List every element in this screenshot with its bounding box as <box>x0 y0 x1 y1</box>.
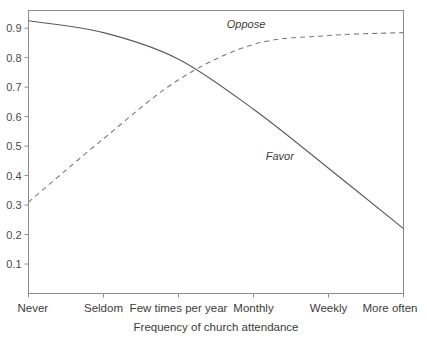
x-category-label: Weekly <box>310 302 348 314</box>
y-tick-label: 0.5 <box>6 140 21 152</box>
y-tick-label: 0.7 <box>6 81 21 93</box>
series-line-oppose <box>29 33 404 203</box>
x-category-label: More often <box>363 302 418 314</box>
y-tick-label: 0.6 <box>6 111 21 123</box>
y-tick-label: 0.4 <box>6 170 21 182</box>
y-tick-label: 0.1 <box>6 258 21 270</box>
x-category-label: Never <box>18 302 49 314</box>
x-category-label: Monthly <box>233 302 274 314</box>
y-tick-label: 0.9 <box>6 22 21 34</box>
x-axis-title: Frequency of church attendance <box>134 321 299 333</box>
series-annotation-favor: Favor <box>266 150 295 162</box>
line-chart: 0.10.20.30.40.50.60.70.80.9NeverSeldomFe… <box>0 0 427 341</box>
chart-container: 0.10.20.30.40.50.60.70.80.9NeverSeldomFe… <box>0 0 427 341</box>
y-tick-label: 0.2 <box>6 229 21 241</box>
x-category-label: Seldom <box>84 302 123 314</box>
y-tick-label: 0.8 <box>6 52 21 64</box>
plot-frame <box>29 11 404 294</box>
series-line-favor <box>29 21 404 229</box>
series-annotation-oppose: Oppose <box>227 18 266 30</box>
x-category-label: Few times per year <box>130 302 228 314</box>
y-tick-label: 0.3 <box>6 199 21 211</box>
